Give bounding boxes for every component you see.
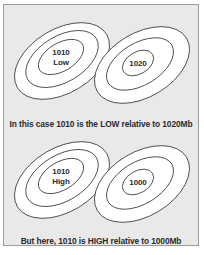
panel-top: 1010 Low 1020 bbox=[4, 5, 198, 113]
blob-label-line1: 1010 bbox=[52, 48, 70, 57]
isobar-diagram-figure: 1010 Low 1020 In this case 1010 is the L… bbox=[3, 4, 199, 246]
contour-group-bottom: 1010 High 1000 bbox=[4, 128, 198, 238]
blob-label-line2: Low bbox=[53, 58, 70, 67]
blob-label-line1: 1020 bbox=[129, 59, 147, 68]
contour-group-top: 1010 Low 1020 bbox=[4, 5, 198, 115]
blob-label-line2: High bbox=[52, 177, 70, 186]
blob-label-line1: 1000 bbox=[129, 178, 147, 187]
panel-bottom: 1010 High 1000 bbox=[4, 128, 198, 236]
caption-bottom: But here, 1010 is HIGH relative to 1000M… bbox=[4, 236, 198, 246]
blob-label-line1: 1010 bbox=[52, 167, 70, 176]
